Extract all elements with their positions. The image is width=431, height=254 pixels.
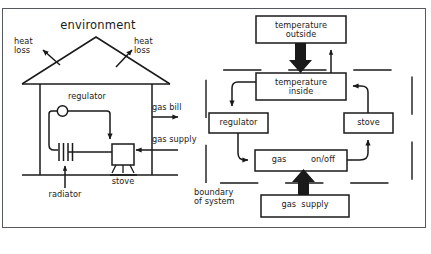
arrow-gas-to-stove: [347, 140, 368, 160]
stove-label-house: stove: [98, 177, 148, 186]
box-label-on-off: on/off: [302, 155, 344, 164]
gas-supply-label-house: gas supply: [152, 135, 214, 144]
boundary-of-system-label: boundary of system: [194, 188, 264, 205]
arrow-inside-to-regulator: [232, 82, 256, 106]
radiator-label: radiator: [36, 190, 94, 199]
box-label-temperature-outside: temperature outside: [256, 21, 346, 38]
arrow-regulator-to-gas: [238, 133, 248, 160]
box-label-regulator: regulator: [209, 118, 268, 127]
gas-bill-label: gas bill: [152, 103, 202, 112]
stove-icon: [110, 144, 137, 175]
box-label-stove: stove: [344, 118, 393, 127]
thick-arrow-inside-to-outside: [289, 43, 312, 73]
arrow-stove-to-inside: [353, 86, 368, 113]
thick-arrows: [289, 43, 315, 195]
box-label-gas: gas: [258, 155, 300, 164]
thick-arrow-supply-to-gas: [292, 169, 315, 195]
environment-heading: environment: [48, 20, 148, 32]
figure-root: environment heat loss heat loss regulato…: [0, 0, 431, 254]
box-label-gas-supply: gas supply: [261, 200, 349, 209]
box-label-temperature-inside: temperature inside: [256, 78, 346, 95]
regulator-label: regulator: [52, 92, 122, 101]
heat-loss-label-left: heat loss: [14, 37, 46, 54]
regulator-valve-icon: [57, 106, 67, 116]
diagram-canvas: [0, 0, 431, 254]
heat-loss-label-right: heat loss: [134, 37, 168, 54]
